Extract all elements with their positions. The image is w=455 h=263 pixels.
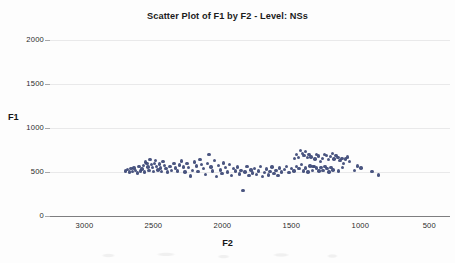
data-point bbox=[287, 171, 290, 174]
data-point bbox=[195, 164, 198, 167]
data-point bbox=[348, 160, 351, 163]
data-point bbox=[300, 163, 303, 166]
data-point bbox=[198, 158, 201, 161]
data-point bbox=[230, 174, 233, 177]
data-point bbox=[178, 163, 181, 166]
data-point bbox=[222, 161, 225, 164]
data-point bbox=[241, 189, 244, 192]
data-point bbox=[306, 170, 309, 173]
data-point bbox=[243, 170, 246, 173]
scan-artifact bbox=[70, 250, 390, 261]
data-point bbox=[161, 160, 164, 163]
y-axis-tick bbox=[45, 172, 50, 173]
data-point bbox=[267, 173, 270, 176]
data-point bbox=[263, 171, 266, 174]
data-point bbox=[327, 158, 330, 161]
data-point bbox=[200, 163, 203, 166]
data-point bbox=[217, 164, 220, 167]
data-point bbox=[285, 165, 288, 168]
page-title: Scatter Plot of F1 by F2 - Level: NSs bbox=[0, 11, 455, 21]
data-point bbox=[283, 168, 286, 171]
data-point bbox=[321, 157, 324, 160]
data-point bbox=[213, 159, 216, 162]
data-point bbox=[259, 165, 262, 168]
data-point bbox=[187, 166, 190, 169]
data-point bbox=[189, 174, 192, 177]
y-axis-tick bbox=[45, 128, 50, 129]
data-point bbox=[377, 173, 380, 176]
scatter-plot-figure: Scatter Plot of F1 by F2 - Level: NSs F1… bbox=[0, 0, 455, 263]
data-point bbox=[346, 155, 349, 158]
y-axis-tick bbox=[45, 216, 50, 217]
data-point bbox=[238, 172, 241, 175]
data-point bbox=[176, 169, 179, 172]
data-point bbox=[304, 166, 307, 169]
data-point bbox=[292, 169, 295, 172]
data-point bbox=[342, 162, 345, 165]
data-point bbox=[196, 170, 199, 173]
data-point bbox=[317, 169, 320, 172]
data-point bbox=[168, 165, 171, 168]
data-point bbox=[313, 157, 316, 160]
gridline-horizontal bbox=[50, 40, 450, 41]
data-point bbox=[257, 169, 260, 172]
data-point bbox=[143, 170, 146, 173]
data-point bbox=[207, 153, 210, 156]
data-point bbox=[319, 160, 322, 163]
x-axis-title: F2 bbox=[0, 238, 455, 248]
x-axis-tick-label: 500 bbox=[423, 221, 436, 230]
data-point bbox=[224, 166, 227, 169]
data-point bbox=[166, 170, 169, 173]
data-point bbox=[325, 154, 328, 157]
data-point bbox=[202, 167, 205, 170]
data-point bbox=[337, 169, 340, 172]
y-axis-tick-label: 1000 bbox=[10, 123, 44, 132]
data-point bbox=[147, 169, 150, 172]
y-axis-tick-label: 500 bbox=[10, 167, 44, 176]
x-axis-tick-label: 3000 bbox=[76, 221, 94, 230]
data-point bbox=[331, 168, 334, 171]
data-point bbox=[297, 156, 300, 159]
data-point bbox=[311, 169, 314, 172]
data-point bbox=[370, 170, 373, 173]
data-point bbox=[245, 165, 248, 168]
data-point bbox=[255, 173, 258, 176]
gridline-horizontal bbox=[50, 84, 450, 85]
data-point bbox=[276, 174, 279, 177]
data-point bbox=[317, 154, 320, 157]
x-axis-tick-label: 1000 bbox=[351, 221, 369, 230]
data-point bbox=[247, 174, 250, 177]
y-axis-tick-label: 0 bbox=[10, 211, 44, 220]
x-axis-tick-label: 2000 bbox=[214, 221, 232, 230]
data-point bbox=[183, 170, 186, 173]
data-point bbox=[220, 172, 223, 175]
data-point bbox=[148, 158, 151, 161]
y-axis-tick bbox=[45, 40, 50, 41]
data-point bbox=[253, 167, 256, 170]
data-point bbox=[268, 170, 271, 173]
x-axis-labels: 30002500200015001000500 bbox=[0, 221, 455, 235]
data-point bbox=[185, 162, 188, 165]
data-point bbox=[251, 171, 254, 174]
x-axis-tick-label: 1500 bbox=[283, 221, 301, 230]
data-point bbox=[341, 166, 344, 169]
data-point bbox=[353, 169, 356, 172]
data-point bbox=[180, 159, 183, 162]
data-point bbox=[226, 170, 229, 173]
data-point bbox=[228, 163, 231, 166]
y-axis-tick bbox=[45, 84, 50, 85]
data-point bbox=[209, 165, 212, 168]
data-point bbox=[327, 170, 330, 173]
data-point bbox=[293, 157, 296, 160]
data-point bbox=[151, 166, 154, 169]
data-point bbox=[154, 159, 157, 162]
gridline-horizontal bbox=[50, 172, 450, 173]
data-point bbox=[182, 165, 185, 168]
y-axis-tick-label: 1500 bbox=[10, 79, 44, 88]
x-axis-line bbox=[50, 216, 450, 217]
y-axis-tick-label: 2000 bbox=[10, 35, 44, 44]
data-point bbox=[172, 162, 175, 165]
data-point bbox=[261, 175, 264, 178]
data-point bbox=[204, 173, 207, 176]
plot-area bbox=[50, 40, 450, 216]
